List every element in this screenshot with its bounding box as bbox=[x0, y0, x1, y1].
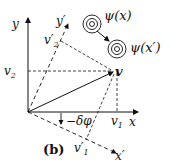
v1-prime-label: v′1 bbox=[74, 141, 89, 157]
x-axis-label: x bbox=[129, 115, 136, 129]
v2-prime-projection bbox=[61, 41, 113, 71]
psi-transform-arrow bbox=[97, 31, 109, 41]
v2-prime-label: v′2 bbox=[44, 33, 59, 49]
x-prime-axis-label: x′ bbox=[115, 149, 125, 163]
v2-label: v2 bbox=[4, 64, 16, 80]
psi-x-label: ψ(x) bbox=[104, 8, 132, 23]
rotation-diagram: y x y′ x′ v v2 v1 v′2 v′1 −δφ ψ(x) ψ(x′)… bbox=[0, 0, 170, 167]
diagram-canvas: y x y′ x′ v v2 v1 v′2 v′1 −δφ ψ(x) ψ(x′)… bbox=[0, 0, 170, 167]
psi-x-icon bbox=[83, 15, 101, 33]
panel-label: (b) bbox=[43, 142, 64, 157]
psi-x-prime-label: ψ(x′) bbox=[130, 40, 161, 55]
rotation-angle-label: −δφ bbox=[66, 114, 92, 128]
y-prime-axis-label: y′ bbox=[55, 14, 66, 28]
vector-v bbox=[28, 72, 113, 112]
y-axis-label: y bbox=[11, 17, 19, 31]
v1-label: v1 bbox=[111, 114, 123, 130]
v1-prime-projection bbox=[86, 74, 114, 140]
psi-x-prime-icon bbox=[108, 40, 126, 58]
vector-v-label: v bbox=[115, 64, 123, 79]
